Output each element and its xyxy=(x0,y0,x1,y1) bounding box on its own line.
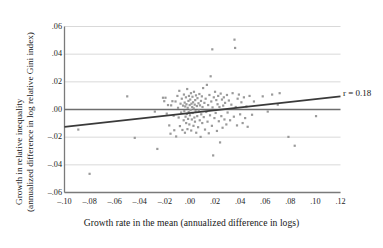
scatter-point xyxy=(210,75,212,77)
scatter-point xyxy=(237,98,239,100)
x-tick-label: .12 xyxy=(328,197,354,206)
scatter-point xyxy=(187,118,189,120)
scatter-point xyxy=(279,92,281,94)
scatter-point xyxy=(185,103,187,105)
scatter-point xyxy=(194,104,196,106)
scatter-point xyxy=(230,104,232,106)
scatter-point xyxy=(217,95,219,97)
scatter-point xyxy=(226,94,228,96)
scatter-point xyxy=(156,148,158,150)
x-tick-label: .00 xyxy=(177,197,203,206)
scatter-point xyxy=(225,123,227,125)
scatter-point xyxy=(88,173,90,175)
y-tick-label: .06 xyxy=(36,22,62,31)
scatter-point xyxy=(192,101,194,103)
x-tick-label: .06 xyxy=(252,197,278,206)
scatter-point xyxy=(243,96,245,98)
scatter-point xyxy=(248,95,250,97)
scatter-point xyxy=(185,96,187,98)
scatter-point xyxy=(178,116,180,118)
scatter-point xyxy=(229,119,231,121)
scatter-point xyxy=(179,125,181,127)
scatter-point xyxy=(218,106,220,108)
scatter-point xyxy=(199,119,201,121)
scatter-point xyxy=(181,129,183,131)
scatter-point xyxy=(205,98,207,100)
y-axis-title-line-2: (annualized difference in log relative G… xyxy=(25,2,35,212)
scatter-point xyxy=(215,99,217,101)
scatter-point xyxy=(193,107,195,109)
scatter-point xyxy=(185,122,187,124)
scatter-point xyxy=(244,117,246,119)
scatter-point xyxy=(199,104,201,106)
scatter-point xyxy=(177,107,179,109)
scatter-point xyxy=(201,122,203,124)
x-tick-label: –.10 xyxy=(52,197,78,206)
scatter-point xyxy=(163,100,165,102)
scatter-point xyxy=(170,104,172,106)
scatter-point xyxy=(171,100,173,102)
y-tick-label: .04 xyxy=(36,49,62,58)
scatter-point xyxy=(242,122,244,124)
scatter-point xyxy=(253,100,255,102)
scatter-point xyxy=(162,97,164,99)
scatter-point xyxy=(196,115,198,117)
scatter-point xyxy=(209,114,211,116)
scatter-point xyxy=(197,126,199,128)
scatter-point xyxy=(212,154,214,156)
scatter-point xyxy=(224,102,226,104)
scatter-point xyxy=(223,96,225,98)
y-tick-label: –.02 xyxy=(36,132,62,141)
scatter-point xyxy=(234,47,236,49)
scatter-point xyxy=(134,137,136,139)
scatter-point xyxy=(126,95,128,97)
x-tick-label: –.02 xyxy=(152,197,178,206)
scatter-point xyxy=(210,100,212,102)
scatter-point xyxy=(197,102,199,104)
scatter-point xyxy=(166,113,168,115)
scatter-point xyxy=(182,105,184,107)
scatter-point xyxy=(183,119,185,121)
scatter-point xyxy=(178,90,180,92)
scatter-point xyxy=(174,100,176,102)
scatter-point xyxy=(175,135,177,137)
scatter-point xyxy=(239,113,241,115)
scatter-point xyxy=(213,117,215,119)
scatter-point xyxy=(206,84,208,86)
scatter-point xyxy=(187,107,189,109)
scatter-point xyxy=(186,128,188,130)
scatter-point xyxy=(179,103,181,105)
y-axis-title: Growth in relative inequality (annualize… xyxy=(0,0,40,210)
scatter-points xyxy=(77,39,317,175)
scatter-point xyxy=(228,99,230,101)
scatter-point xyxy=(189,109,191,111)
x-axis-title: Growth rate in the mean (annualized diff… xyxy=(0,218,383,229)
x-tick-label: .04 xyxy=(227,197,253,206)
scatter-point xyxy=(206,121,208,123)
scatter-point xyxy=(218,120,220,122)
scatter-point xyxy=(195,132,197,134)
scatter-point xyxy=(203,116,205,118)
scatter-point xyxy=(262,95,264,97)
scatter-point xyxy=(287,136,289,138)
scatter-point xyxy=(221,127,223,129)
x-tick-label: –.08 xyxy=(77,197,103,206)
scatter-point xyxy=(77,128,79,130)
scatter-point xyxy=(176,95,178,97)
scatter-point xyxy=(190,92,192,94)
scatter-point xyxy=(251,114,253,116)
y-tick-label: .02 xyxy=(36,77,62,86)
scatter-point xyxy=(216,103,218,105)
scatter-point xyxy=(215,112,217,114)
scatter-point xyxy=(200,136,202,138)
scatter-point xyxy=(211,106,213,108)
scatter-point xyxy=(183,110,185,112)
scatter-point xyxy=(208,94,210,96)
scatter-point xyxy=(202,87,204,89)
scatter-point xyxy=(189,114,191,116)
scatter-point xyxy=(223,118,225,120)
scatter-point xyxy=(196,97,198,99)
scatter-point xyxy=(188,123,190,125)
scatter-point xyxy=(208,132,210,134)
scatter-point xyxy=(184,105,186,107)
